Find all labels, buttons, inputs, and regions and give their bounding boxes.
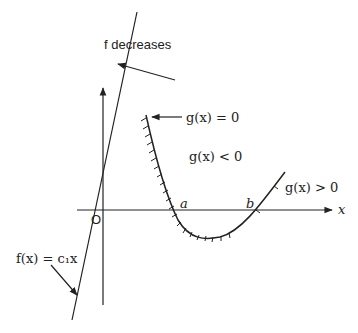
g-greater-zero-label: g(x) > 0 xyxy=(285,181,338,194)
diagram-graphics xyxy=(0,0,358,333)
hatch-marks xyxy=(141,118,278,242)
g-equals-zero-label: g(x) = 0 xyxy=(186,111,239,124)
f-label-arrow xyxy=(51,265,77,295)
point-a-label: a xyxy=(180,197,188,210)
objective-line xyxy=(72,12,137,320)
constraint-curve xyxy=(146,115,285,238)
point-b-label: b xyxy=(246,197,254,210)
decrease-arrow xyxy=(118,64,175,80)
objective-function-label: f(x) = c₁x xyxy=(16,252,77,265)
diagram-canvas: f decreases g(x) = 0 g(x) < 0 g(x) > 0 f… xyxy=(0,0,358,333)
origin-label: O xyxy=(91,213,101,226)
f-decreases-label: f decreases xyxy=(104,38,171,51)
g-less-zero-label: g(x) < 0 xyxy=(189,150,242,163)
x-axis-label: x xyxy=(338,203,345,216)
